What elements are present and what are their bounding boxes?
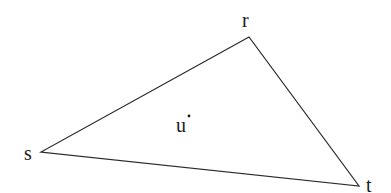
vertex-label-r: r bbox=[242, 9, 249, 31]
triangle-rst bbox=[41, 37, 359, 186]
vertex-label-t: t bbox=[366, 174, 372, 193]
vertex-label-s: s bbox=[24, 142, 32, 164]
point-u-dot bbox=[188, 115, 191, 118]
point-label-u: u bbox=[176, 114, 186, 136]
triangle-diagram: r s t u bbox=[0, 0, 391, 193]
